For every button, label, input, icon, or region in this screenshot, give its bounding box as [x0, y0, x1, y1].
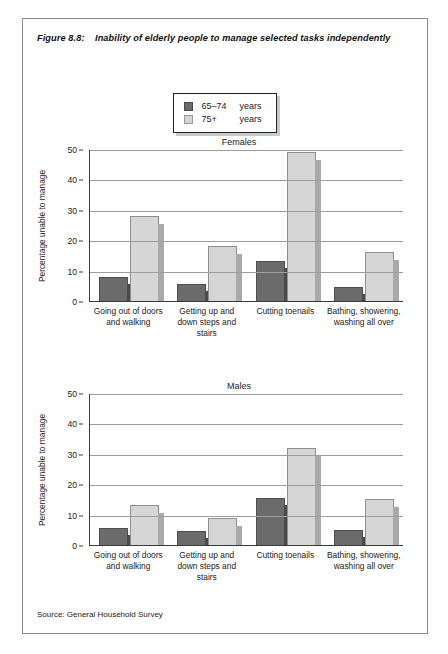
x-axis-label: Getting up and down steps and stairs [168, 306, 247, 339]
y-tick-mark [79, 394, 83, 395]
gridline [90, 241, 403, 242]
x-axis-label: Bathing, showering, washing all over [325, 306, 404, 339]
x-axis-label: Getting up and down steps and stairs [168, 550, 247, 583]
x-axis-label: Going out of doors and walking [89, 306, 168, 339]
bar [365, 499, 394, 545]
source-note: Source: General Household Survey [37, 610, 163, 619]
bar-group [168, 394, 246, 545]
y-tick-label: 40 [67, 419, 77, 429]
gridline [90, 394, 403, 395]
chart-panel-females: Females Percentage unable to manage 0102… [23, 137, 427, 358]
x-axis-label: Cutting toenails [246, 550, 325, 583]
legend-item-75-plus: 75+ years [184, 113, 261, 126]
y-tick-label: 50 [67, 389, 77, 399]
y-tick-label: 30 [67, 450, 77, 460]
bar [99, 277, 128, 301]
bar [334, 287, 363, 301]
legend-item-65-74: 65–74 years [184, 100, 261, 113]
y-axis-title-males: Percentage unable to manage [35, 394, 49, 546]
x-axis-labels-males: Going out of doors and walkingGetting up… [89, 550, 403, 583]
y-tick-mark [79, 454, 83, 455]
legend: 65–74 years 75+ years [23, 93, 427, 133]
y-tick-label: 0 [72, 297, 77, 307]
chart-title-males: Males [23, 381, 427, 391]
bar [208, 518, 237, 545]
y-tick-label: 40 [67, 175, 77, 185]
bar [287, 152, 316, 301]
x-axis-label: Bathing, showering, washing all over [325, 550, 404, 583]
legend-box: 65–74 years 75+ years [173, 93, 276, 133]
figure-frame: Figure 8.8: Inability of elderly people … [22, 18, 428, 634]
legend-label-key-65-74: 65–74 [201, 100, 239, 113]
bar [334, 530, 363, 545]
bar [130, 216, 159, 301]
gridline [90, 455, 403, 456]
bar-groups-females [90, 150, 403, 301]
y-tick-mark [79, 515, 83, 516]
x-axis-label: Going out of doors and walking [89, 550, 168, 583]
y-tick-label: 0 [72, 541, 77, 551]
gridline [90, 150, 403, 151]
gridline [90, 516, 403, 517]
bar [256, 261, 285, 301]
plot-area-males [89, 394, 403, 546]
y-tick-label: 20 [67, 236, 77, 246]
legend-label-unit-75-plus: years [239, 113, 261, 126]
gridline [90, 485, 403, 486]
y-tick-mark [79, 485, 83, 486]
y-tick-mark [79, 210, 83, 211]
bar-group [325, 150, 403, 301]
y-tick-mark [79, 424, 83, 425]
legend-label-key-75-plus: 75+ [201, 113, 239, 126]
y-tick-label: 10 [67, 267, 77, 277]
x-axis-label: Cutting toenails [246, 306, 325, 339]
y-tick-label: 10 [67, 511, 77, 521]
bar-group [90, 394, 168, 545]
legend-swatch-icon-75-plus [184, 115, 193, 124]
y-axis-ticks-females: 01020304050 [55, 150, 83, 302]
gridline [90, 180, 403, 181]
chart-panel-males: Males Percentage unable to manage 010203… [23, 381, 427, 602]
bar-group [168, 150, 246, 301]
figure-title: Inability of elderly people to manage se… [95, 33, 415, 43]
bar [287, 448, 316, 545]
y-tick-mark [79, 271, 83, 272]
y-tick-label: 30 [67, 206, 77, 216]
y-tick-label: 50 [67, 145, 77, 155]
bar-group [90, 150, 168, 301]
gridline [90, 424, 403, 425]
legend-label-unit-65-74: years [239, 100, 261, 113]
y-tick-label: 20 [67, 480, 77, 490]
figure-caption: Figure 8.8: Inability of elderly people … [37, 33, 415, 43]
y-tick-mark [79, 302, 83, 303]
bar [177, 284, 206, 301]
y-tick-mark [79, 180, 83, 181]
bar [99, 528, 128, 545]
bar-groups-males [90, 394, 403, 545]
figure-number: Figure 8.8: [37, 33, 95, 43]
bar [177, 531, 206, 545]
y-tick-mark [79, 150, 83, 151]
bar [130, 505, 159, 545]
gridline [90, 272, 403, 273]
chart-title-females: Females [23, 137, 427, 147]
plot-area-females [89, 150, 403, 302]
bar-group [247, 150, 325, 301]
y-tick-mark [79, 546, 83, 547]
bar-group [247, 394, 325, 545]
y-tick-mark [79, 241, 83, 242]
legend-swatch-icon-65-74 [184, 102, 193, 111]
x-axis-labels-females: Going out of doors and walkingGetting up… [89, 306, 403, 339]
y-axis-ticks-males: 01020304050 [55, 394, 83, 546]
gridline [90, 211, 403, 212]
bar-group [325, 394, 403, 545]
bar [208, 246, 237, 301]
y-axis-title-females: Percentage unable to manage [35, 150, 49, 302]
bar [365, 252, 394, 301]
bar [256, 498, 285, 545]
